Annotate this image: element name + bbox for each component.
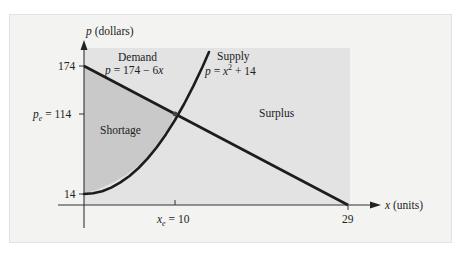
x-axis-unit: (units) — [393, 199, 423, 211]
xe-val: = 10 — [166, 213, 190, 225]
y-axis-arrow-icon — [81, 40, 88, 50]
demand-eq-x: x — [158, 64, 163, 76]
y-axis-unit: (dollars) — [95, 25, 134, 37]
shortage-label: Shortage — [100, 125, 141, 137]
demand-title: Demand — [118, 52, 157, 64]
supply-eq-rest: + 14 — [232, 65, 256, 77]
y-tick-label-pe: pe = 114 — [33, 109, 71, 123]
supply-eq-eq: = — [211, 65, 223, 77]
supply-equation: p = x2 + 14 — [205, 64, 256, 77]
demand-equation: p = 174 − 6x — [105, 65, 163, 77]
x-tick-label-xe: xe = 10 — [157, 214, 189, 228]
supply-title: Supply — [217, 51, 250, 63]
surplus-label: Surplus — [259, 108, 294, 120]
pe-val: = 114 — [42, 108, 71, 120]
equilibrium-point — [173, 112, 178, 117]
demand-eq-rest: = 174 − 6 — [111, 64, 158, 76]
x-tick-label-29: 29 — [342, 214, 354, 226]
chart-plot — [0, 0, 464, 254]
y-axis-label: p (dollars) — [86, 26, 134, 38]
x-axis-label: x (units) — [385, 200, 423, 212]
x-axis-arrow-icon — [370, 202, 381, 209]
y-tick-label-14: 14 — [64, 189, 76, 201]
y-axis-var: p — [86, 25, 92, 37]
y-tick-label-174: 174 — [58, 61, 75, 73]
x-axis-var: x — [385, 199, 390, 211]
